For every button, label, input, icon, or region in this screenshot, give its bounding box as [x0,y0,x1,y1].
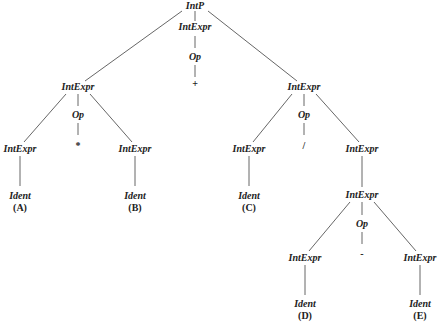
node-ident-a: Ident [9,191,31,201]
node-intexpr-rr: IntExpr [346,144,379,154]
node-intexpr-left: IntExpr [62,82,95,92]
edge-l-ll [24,94,66,142]
edge-root-left [85,11,182,81]
edge-inner-rrl [309,202,350,251]
terminal-b: (B) [128,203,141,213]
node-intexpr-right: IntExpr [288,82,321,92]
parse-tree-diagram: IntP IntExpr Op + IntExpr Op * IntExpr I… [0,0,438,328]
terminal-minus: - [360,249,363,259]
edge-inner-rrr [374,202,416,251]
node-intexpr-rr-inner: IntExpr [346,190,379,200]
edge-root-right [208,11,297,81]
node-ident-b: Ident [124,191,146,201]
node-ident-d: Ident [294,299,316,309]
node-intexpr-rrr: IntExpr [404,253,437,263]
node-intexpr-root: IntExpr [179,22,212,32]
terminal-d: (D) [298,311,312,321]
terminal-c: (C) [242,203,256,213]
node-op-right: Op [298,110,310,120]
node-intexpr-lr: IntExpr [119,144,152,154]
tree-edges [0,0,438,328]
node-op-root: Op [189,52,201,62]
edge-r-rr [316,94,359,142]
node-ident-c: Ident [238,191,260,201]
node-intexpr-ll: IntExpr [4,144,37,154]
terminal-e: (E) [413,311,426,321]
node-intp-root: IntP [186,1,204,11]
node-op-rr: Op [356,219,368,229]
node-ident-e: Ident [409,299,431,309]
terminal-divide: / [303,141,306,151]
terminal-multiply: * [76,141,81,151]
node-intexpr-rrl: IntExpr [289,253,322,263]
node-op-left: Op [72,110,84,120]
edge-l-lr [90,94,132,142]
terminal-a: (A) [13,203,27,213]
edge-r-rl [253,94,292,142]
terminal-plus: + [192,79,198,89]
node-intexpr-rl: IntExpr [233,144,266,154]
